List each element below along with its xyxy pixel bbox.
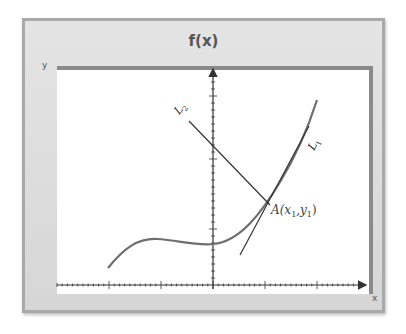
label-point-a: A(x1,y1) [270,203,317,219]
diagram-canvas: L 2 L 1 A(x1,y1) [0,0,406,334]
svg-text:A(x1,y1): A(x1,y1) [270,203,317,219]
label-l2: L 2 [171,100,191,119]
y-axis [209,70,217,289]
normal-line-l2 [189,121,270,205]
x-axis [57,281,365,289]
label-l1: L 1 [305,136,324,154]
tangent-line-l1 [240,126,309,255]
